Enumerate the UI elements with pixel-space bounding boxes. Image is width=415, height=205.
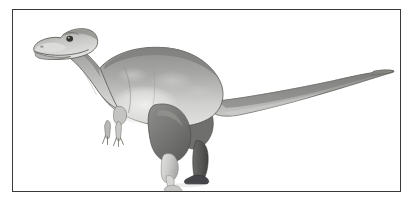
tail-top-shade xyxy=(218,70,391,108)
nostril xyxy=(40,45,44,47)
far-foot xyxy=(184,175,208,184)
flank-mottle-3 xyxy=(116,67,148,83)
figure-frame xyxy=(12,9,401,192)
eye xyxy=(66,36,73,42)
hand-near-claws xyxy=(113,138,123,147)
flank-mottle-2 xyxy=(182,84,214,102)
forelimb-group xyxy=(103,106,127,146)
eye-highlight xyxy=(68,37,70,39)
ground-shadow xyxy=(172,183,204,187)
tail-group xyxy=(215,70,394,116)
near-leg-group xyxy=(148,104,191,191)
illustration-page: Tyrannosaurid theropod dinosaur, left la… xyxy=(0,0,415,205)
dinosaur-illustration xyxy=(13,10,400,191)
